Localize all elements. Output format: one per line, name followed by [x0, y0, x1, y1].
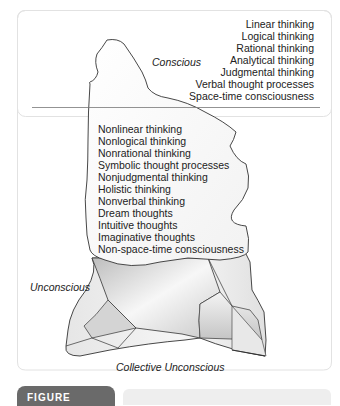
unconscious-trait: Nonlogical thinking	[98, 135, 244, 147]
unconscious-trait: Nonrational thinking	[98, 147, 244, 159]
figure-caption-tab-label: FIGURE	[27, 392, 71, 403]
conscious-trait: Analytical thinking	[189, 54, 314, 66]
conscious-label: Conscious	[152, 56, 201, 68]
unconscious-trait: Nonjudgmental thinking	[98, 171, 244, 183]
conscious-trait: Logical thinking	[189, 30, 314, 42]
conscious-trait: Space-time consciousness	[189, 90, 314, 102]
collective-unconscious-label: Collective Unconscious	[116, 361, 225, 373]
conscious-trait: Judgmental thinking	[189, 66, 314, 78]
unconscious-traits-list: Nonlinear thinking Nonlogical thinking N…	[98, 123, 244, 255]
unconscious-trait: Dream thoughts	[98, 207, 244, 219]
unconscious-trait: Nonverbal thinking	[98, 195, 244, 207]
conscious-trait: Rational thinking	[189, 42, 314, 54]
conscious-traits-list: Linear thinking Logical thinking Rationa…	[189, 18, 314, 102]
unconscious-trait: Non-space-time consciousness	[98, 243, 244, 255]
conscious-trait: Linear thinking	[189, 18, 314, 30]
unconscious-trait: Holistic thinking	[98, 183, 244, 195]
unconscious-trait: Imaginative thoughts	[98, 231, 244, 243]
unconscious-trait: Symbolic thought processes	[98, 159, 244, 171]
figure-caption-bar	[123, 389, 331, 405]
figure-caption-tab: FIGURE	[17, 386, 115, 406]
unconscious-trait: Nonlinear thinking	[98, 123, 244, 135]
unconscious-label: Unconscious	[30, 281, 90, 293]
unconscious-trait: Intuitive thoughts	[98, 219, 244, 231]
conscious-trait: Verbal thought processes	[189, 78, 314, 90]
